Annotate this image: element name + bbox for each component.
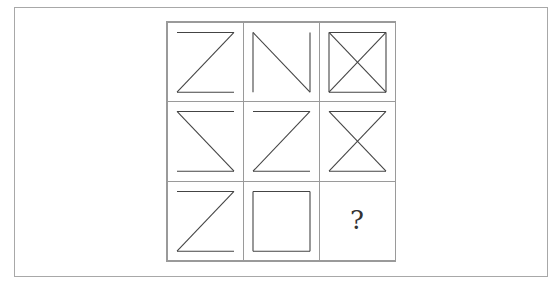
stroke-diag-tl-br [177,112,234,172]
figure-square-with-x [320,23,395,102]
stroke-diag-tl-br [253,32,310,92]
cell-r3c3: ? [319,181,396,262]
stroke-diag-tr-bl [177,191,234,251]
stroke-diag-tr-bl [253,112,310,172]
figure-z-shape [244,102,319,181]
stroke-diag-tr-bl [177,32,234,92]
figure-hourglass [320,102,395,181]
figure-z-shape [168,182,243,261]
cell-r2c2 [243,101,320,182]
cell-r1c3 [319,22,396,103]
cell-r1c2 [243,22,320,103]
figure-n-shape [244,23,319,102]
figure-reverse-z-shape [168,102,243,181]
cell-r2c1 [167,101,244,182]
cell-r3c1 [167,181,244,262]
figure-square [244,182,319,261]
cell-r2c3 [319,101,396,182]
question-mark: ? [320,206,395,236]
figure-z-shape [168,23,243,102]
puzzle-grid: ? [166,21,396,262]
cell-r1c1 [167,22,244,103]
cell-r3c2 [243,181,320,262]
